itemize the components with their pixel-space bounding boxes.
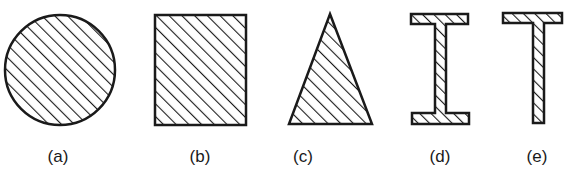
shape-a-circle [5,15,115,125]
shape-d-i-beam [411,14,469,124]
label-c: (c) [293,147,313,166]
shape-c-triangle [289,14,372,124]
shape-e-t-beam [503,13,562,123]
cross-sections-diagram: (a) (b) (c) (d) (e) [0,0,574,173]
shape-b-rectangle [155,15,246,125]
label-b: (b) [190,147,211,166]
label-a: (a) [48,147,69,166]
label-e: (e) [527,147,548,166]
label-d: (d) [430,147,451,166]
